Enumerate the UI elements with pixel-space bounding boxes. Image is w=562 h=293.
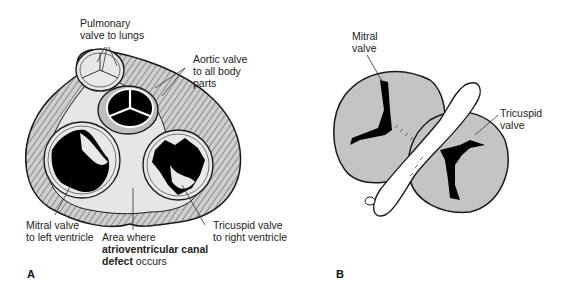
- mitral-valve-a: [44, 122, 120, 198]
- pulmonary-valve: [76, 49, 124, 91]
- label-av-canal-area: Area where atrioventricular canal defect…: [102, 231, 208, 267]
- panel-b-valves: [334, 72, 508, 216]
- label-tricuspid-valve-a: Tricuspid valve to right ventricle: [213, 219, 287, 243]
- label-pulmonary-valve: Pulmonary valve to lungs: [80, 17, 144, 41]
- label-aortic-valve: Aortic valve to all body parts: [193, 53, 247, 89]
- label-tricuspid-valve-b: Tricuspid valve: [500, 107, 542, 131]
- panel-label-a: A: [27, 268, 35, 280]
- aortic-valve: [98, 86, 158, 134]
- heart-valve-diagram: [0, 0, 562, 293]
- label-mitral-valve-b: Mitral valve: [352, 30, 378, 54]
- tricuspid-valve-a: [143, 130, 213, 200]
- panel-label-b: B: [336, 268, 344, 280]
- label-mitral-valve-a: Mitral valve to left ventricle: [26, 219, 94, 243]
